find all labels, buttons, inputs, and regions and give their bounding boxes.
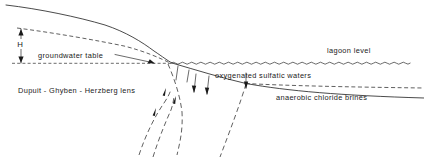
groundwater-table-label: groundwater table: [38, 51, 103, 60]
lagoon-level-label: lagoon level: [327, 46, 371, 55]
groundwater-leader-arrow-icon: [148, 59, 155, 63]
lens-label: Dupuit - Ghyben - Herzberg lens: [18, 86, 135, 95]
recharge-arrow-1-icon: [192, 85, 196, 93]
figure-canvas: H groundwater table lagoon level: [0, 0, 424, 158]
anaerobic-brines-label: anaerobic chloride brines: [276, 93, 367, 102]
recharge-arrow-2-icon: [205, 87, 209, 95]
oxygenated-waters-label: oxygenated sulfatic waters: [215, 71, 311, 80]
lens-flow-arrow-2-icon: [153, 108, 156, 116]
cross-section-drawing: H groundwater table lagoon level: [0, 0, 424, 158]
lagoon-water-surface-line: [171, 62, 410, 64]
head-arrow-down-icon: [18, 57, 23, 64]
lens-flowline-inner: [153, 95, 174, 157]
head-label: H: [17, 40, 23, 49]
interface-descending-line: [220, 84, 246, 157]
head-arrow-up-icon: [18, 29, 23, 36]
lens-interface-line: [168, 64, 182, 155]
lens-flow-arrow-1-icon: [163, 88, 166, 96]
groundwater-leader-line: [115, 55, 152, 63]
convergence-tick-1: [176, 66, 178, 80]
convergence-tick-2: [187, 70, 189, 82]
